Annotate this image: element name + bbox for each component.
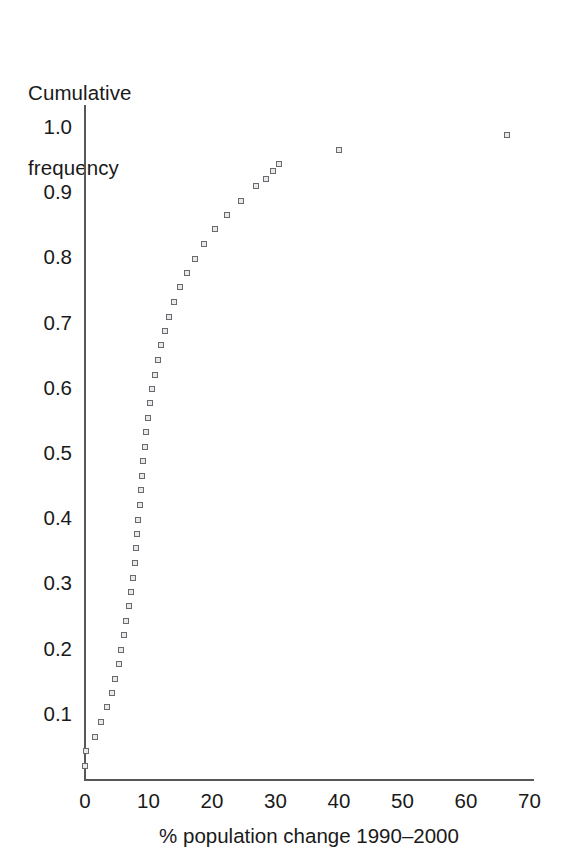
data-point-marker — [112, 676, 118, 682]
y-axis-tick-label: 0.3 — [44, 571, 73, 595]
data-point-marker — [504, 132, 510, 138]
data-point-marker — [184, 270, 190, 276]
data-point-marker — [126, 603, 132, 609]
x-axis-tick-label: 50 — [391, 789, 414, 813]
y-axis-tick-label: 0.9 — [44, 180, 73, 204]
data-point-marker — [138, 487, 144, 493]
x-axis-line — [84, 779, 534, 781]
data-point-marker — [166, 314, 172, 320]
data-point-marker — [155, 357, 161, 363]
data-point-marker — [276, 161, 282, 167]
y-axis-tick-label: 0.2 — [44, 637, 73, 661]
x-axis-tick-label: 30 — [264, 789, 287, 813]
data-point-marker — [135, 517, 141, 523]
cumulative-frequency-chart: Cumulative frequency 0.10.20.30.40.50.60… — [0, 0, 568, 859]
data-point-marker — [149, 386, 155, 392]
data-point-marker — [152, 372, 158, 378]
y-axis-tick-label: 0.7 — [44, 311, 73, 335]
y-axis-tick-label: 1.0 — [44, 115, 73, 139]
data-point-marker — [123, 618, 129, 624]
x-axis-title: % population change 1990–2000 — [84, 824, 534, 848]
data-point-marker — [263, 176, 269, 182]
y-axis-tick-label: 0.4 — [44, 506, 73, 530]
y-axis-title-line-2: frequency — [28, 155, 132, 180]
data-point-marker — [145, 415, 151, 421]
y-axis-line — [84, 105, 86, 781]
data-point-marker — [132, 560, 138, 566]
y-axis-tick-label: 0.6 — [44, 376, 73, 400]
data-point-marker — [147, 400, 153, 406]
x-axis-tick-label: 0 — [79, 789, 90, 813]
data-point-marker — [212, 226, 218, 232]
x-axis-tick-label: 60 — [455, 789, 478, 813]
data-point-marker — [171, 299, 177, 305]
y-axis-tick-label: 0.5 — [44, 441, 73, 465]
x-axis-tick-label: 40 — [328, 789, 351, 813]
data-point-marker — [162, 328, 168, 334]
data-point-marker — [130, 575, 136, 581]
x-axis-tick-label: 10 — [137, 789, 160, 813]
data-point-marker — [92, 734, 98, 740]
x-axis-tick-label: 70 — [518, 789, 541, 813]
x-axis-tick-label: 20 — [201, 789, 224, 813]
data-point-marker — [128, 589, 134, 595]
data-point-marker — [336, 147, 342, 153]
data-point-marker — [104, 704, 110, 710]
data-point-marker — [134, 531, 140, 537]
data-point-marker — [238, 198, 244, 204]
data-point-marker — [270, 168, 276, 174]
data-point-marker — [177, 284, 183, 290]
data-point-marker — [201, 241, 207, 247]
data-point-marker — [109, 690, 115, 696]
data-point-marker — [98, 719, 104, 725]
data-point-marker — [143, 429, 149, 435]
data-point-marker — [192, 256, 198, 262]
y-axis-tick-label: 0.1 — [44, 702, 73, 726]
data-point-marker — [133, 545, 139, 551]
data-point-marker — [224, 212, 230, 218]
data-point-marker — [137, 502, 143, 508]
y-axis-title-line-1: Cumulative — [28, 80, 132, 105]
data-point-marker — [121, 632, 127, 638]
data-point-marker — [140, 458, 146, 464]
data-point-marker — [116, 661, 122, 667]
y-axis-tick-label: 0.8 — [44, 245, 73, 269]
data-point-marker — [118, 647, 124, 653]
data-point-marker — [142, 444, 148, 450]
data-point-marker — [253, 183, 259, 189]
data-point-marker — [139, 473, 145, 479]
data-point-marker — [158, 342, 164, 348]
